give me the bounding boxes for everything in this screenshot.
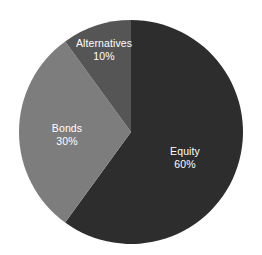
pie-chart-svg <box>0 0 262 255</box>
pie-chart: Equity 60% Bonds 30% Alternatives 10% <box>0 0 262 255</box>
pie-slice-group <box>19 20 243 244</box>
